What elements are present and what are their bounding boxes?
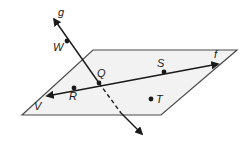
label-q: Q: [97, 67, 106, 79]
label-r: R: [69, 90, 77, 102]
geometry-diagram: g f V W Q R S T: [0, 0, 250, 149]
label-g: g: [58, 6, 65, 18]
point-s: [162, 70, 167, 75]
point-w: [65, 39, 70, 44]
line-g-lower: [121, 113, 142, 134]
label-s: S: [157, 57, 165, 69]
point-t: [149, 97, 154, 102]
label-w: W: [53, 41, 65, 53]
point-q: [97, 81, 102, 86]
plane-v: [22, 50, 237, 115]
